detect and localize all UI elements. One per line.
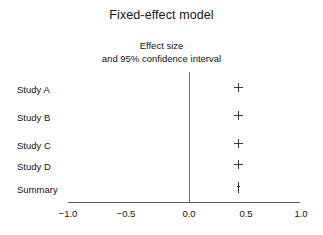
effect-marker-study-a: [234, 83, 243, 92]
forest-plot: Fixed-effect model Effect size and 95% c…: [0, 0, 323, 235]
effect-marker-study-b: [234, 111, 243, 120]
x-axis-tick-label-0-5: 0.5: [239, 208, 252, 219]
effect-marker-study-d: [234, 160, 243, 169]
x-axis-line: [68, 202, 300, 203]
study-label-study-c: Study C: [17, 140, 51, 151]
study-label-study-b: Study B: [17, 112, 50, 123]
study-label-study-a: Study A: [17, 84, 50, 95]
effect-marker-study-c: [234, 139, 243, 148]
x-axis-tick-label-1: 1.0: [294, 208, 307, 219]
study-label-summary: Summary: [17, 184, 58, 195]
plot-area: Study A Study B Study C Study D Summary …: [0, 0, 323, 235]
x-axis-tick-label-0: 0.0: [182, 208, 195, 219]
study-label-study-d: Study D: [17, 161, 51, 172]
effect-marker-summary: [237, 182, 240, 193]
null-effect-reference-line: [189, 72, 190, 202]
x-axis-tick-label-neg-0-5: −0.5: [117, 208, 136, 219]
x-axis-tick-label-neg-1: −1.0: [59, 208, 78, 219]
